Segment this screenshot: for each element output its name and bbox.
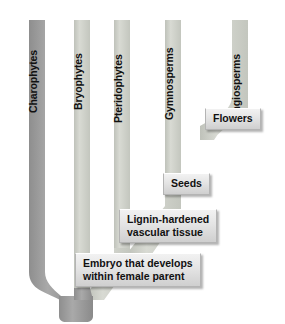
cladogram-canvas: Charophytes Bryophytes Pteridophytes Gym… (0, 0, 285, 324)
trait-box-embryo[interactable]: Embryo that develops within female paren… (75, 253, 201, 287)
trunk-fork-joint (74, 288, 93, 300)
taxon-label-charophytes: Charophytes (28, 50, 39, 113)
taxon-label-pteridophytes: Pteridophytes (113, 54, 124, 123)
taxon-label-bryophytes: Bryophytes (73, 53, 84, 110)
trait-box-seeds[interactable]: Seeds (163, 173, 210, 195)
trait-box-flowers[interactable]: Flowers (205, 108, 261, 130)
taxon-label-gymnosperms: Gymnosperms (164, 48, 175, 120)
trait-box-vascular-tissue[interactable]: Lignin-hardened vascular tissue (119, 209, 217, 243)
